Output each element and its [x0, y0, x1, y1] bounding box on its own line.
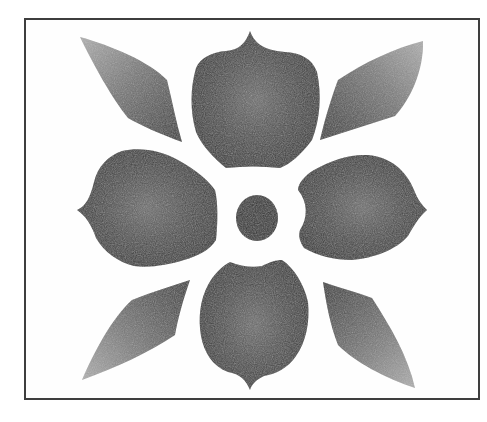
leaf-top-right — [320, 41, 423, 140]
petal-top — [192, 31, 320, 168]
leaf-bottom-left — [82, 280, 190, 380]
flower-center — [236, 195, 278, 241]
leaf-bottom-right — [323, 282, 415, 388]
petal-right — [298, 155, 427, 260]
leaf-top-left — [80, 37, 182, 142]
petal-left — [77, 149, 217, 266]
petal-bottom — [200, 260, 309, 390]
flower-artwork — [0, 0, 487, 422]
stencil-flower-illustration — [0, 0, 487, 422]
